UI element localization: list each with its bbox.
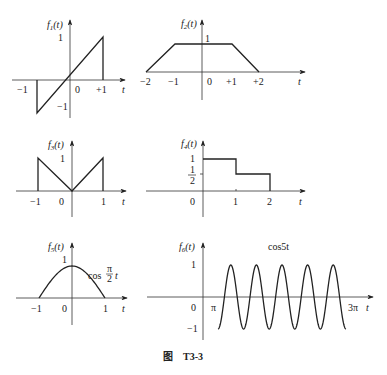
- x-label: t: [122, 196, 125, 207]
- annotation-cos: cos: [88, 270, 101, 281]
- plot-f6: f6(t) cos5t 1 0 −1 π 3π t: [147, 241, 373, 340]
- x-label: t: [299, 196, 302, 207]
- f2-curve: [146, 44, 259, 72]
- tick-y-1: 1: [62, 254, 67, 265]
- tick-x-0: 0: [75, 84, 80, 95]
- tick-x-neg1: −1: [168, 76, 179, 87]
- tick-x-1: +1: [226, 76, 237, 87]
- tick-x-neg1: −1: [31, 303, 42, 314]
- tick-x-2: +2: [253, 76, 264, 87]
- figure-caption: 图 T3-3: [163, 351, 203, 362]
- tick-y-half-den: 2: [190, 175, 195, 186]
- tick-x-1: +1: [96, 84, 107, 95]
- y-label: f2(t): [181, 18, 197, 31]
- f3-curve: [38, 158, 103, 191]
- annotation-cos5t: cos5t: [268, 241, 289, 252]
- tick-y-neg1: −1: [187, 323, 198, 334]
- tick-x-1: 1: [233, 196, 238, 207]
- y-label: f1(t): [47, 19, 63, 32]
- tick-x-neg2: −2: [140, 76, 151, 87]
- annotation-two: 2: [107, 273, 112, 284]
- figure-canvas: f1(t) 1 −1 −1 0 +1 t f2(t) 1 −2 −1 0 +1 …: [0, 0, 387, 375]
- y-label: f4(t): [181, 138, 197, 151]
- annotation-t: t: [115, 270, 118, 281]
- tick-x-0: 0: [191, 302, 196, 313]
- tick-y-neg1: −1: [57, 101, 68, 112]
- x-label: t: [122, 303, 125, 314]
- tick-x-0: 0: [62, 303, 67, 314]
- plot-f4: f4(t) 1 1 2 0 1 2 t: [146, 138, 305, 217]
- x-label: t: [122, 84, 125, 95]
- y-label: f3(t): [48, 139, 64, 152]
- tick-y-1: 1: [191, 259, 196, 270]
- tick-y-1: 1: [190, 153, 195, 164]
- y-label: f6(t): [179, 241, 195, 254]
- tick-x-0: 0: [59, 196, 64, 207]
- tick-x-pi: π: [211, 302, 216, 313]
- tick-x-0: 0: [207, 76, 212, 87]
- tick-x-neg1: −1: [17, 84, 28, 95]
- tick-y-half-num: 1: [190, 164, 195, 175]
- tick-x-2: 2: [267, 196, 272, 207]
- x-label: t: [366, 302, 369, 313]
- plot-f3: f3(t) 1 −1 0 1 t: [16, 139, 126, 217]
- tick-y-1: 1: [58, 32, 63, 43]
- x-label: t: [298, 76, 301, 87]
- tick-x-3pi: 3π: [348, 302, 358, 313]
- plot-f1: f1(t) 1 −1 −1 0 +1 t: [12, 19, 125, 118]
- tick-y-1: 1: [60, 153, 65, 164]
- f4-curve: [203, 159, 270, 191]
- tick-x-1: 1: [101, 196, 106, 207]
- tick-x-1: 1: [103, 303, 108, 314]
- tick-x-neg1: −1: [30, 196, 41, 207]
- tick-y-1: 1: [205, 33, 210, 44]
- plot-f2: f2(t) 1 −2 −1 0 +1 +2 t: [140, 18, 305, 100]
- y-label: f5(t): [48, 241, 64, 254]
- tick-x-0: 0: [190, 196, 195, 207]
- plot-f5: f5(t) 1 cos π 2 t −1 0 1 t: [16, 241, 127, 325]
